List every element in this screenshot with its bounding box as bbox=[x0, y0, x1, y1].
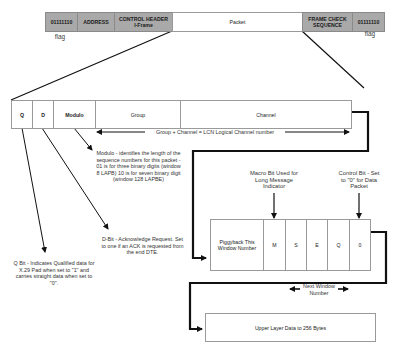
header-group: Group bbox=[95, 100, 181, 129]
frame-packet: Packet bbox=[172, 12, 303, 32]
upper-layer-data-box: Upper Layer Data to 256 Bytes bbox=[205, 313, 376, 342]
control-e-bit: E bbox=[306, 219, 328, 271]
header-channel: Channel bbox=[180, 100, 352, 129]
modulo-annotation: Modulo - identifies the length of the se… bbox=[96, 150, 181, 183]
frame-flag-start: 01111110 bbox=[45, 12, 78, 32]
control-zero-bit: 0 bbox=[349, 219, 371, 271]
next-window-annotation: Next Window Number bbox=[300, 283, 338, 296]
control-bit-annotation: Control Bit - Set to "0" for Data Packet bbox=[337, 170, 381, 190]
frame-address: ADDRESS bbox=[77, 12, 115, 32]
d-bit-annotation: D-Bit - Acknowledge Request. Set to one … bbox=[100, 236, 185, 256]
frame-flag-end: 01111110 bbox=[352, 12, 385, 32]
macro-bit-annotation: Macro Bit Used for Long Message Indicato… bbox=[245, 170, 303, 190]
header-modulo: Modulo bbox=[53, 100, 96, 129]
lcn-note: Group + Channel = LCN Logical Channel nu… bbox=[145, 129, 285, 136]
frame-check-sequence: FRAME CHECK SEQUENCE bbox=[302, 12, 353, 32]
control-s-bit: S bbox=[285, 219, 307, 271]
header-d-bit: D bbox=[32, 100, 54, 129]
flag-label-left: flag bbox=[48, 34, 72, 41]
control-q-bit: Q bbox=[327, 219, 350, 271]
flag-label-right: flag bbox=[358, 31, 382, 38]
control-m-bit: M bbox=[263, 219, 286, 271]
control-piggyback: Piggyback This Window Number bbox=[210, 219, 264, 271]
q-bit-annotation: Q Bit - Indicates Qualified data for X.2… bbox=[12, 260, 96, 286]
frame-control-header: CONTROL HEADER I-Frame bbox=[114, 12, 173, 32]
header-q-bit: Q bbox=[11, 100, 33, 129]
